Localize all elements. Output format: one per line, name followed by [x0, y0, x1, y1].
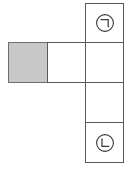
net-cell-giyeok: ㉠	[85, 3, 124, 43]
net-cell-right-second	[85, 42, 124, 83]
net-cell-nieun: ㉡	[85, 122, 124, 163]
cube-net-figure: ㉠ ㉡	[0, 0, 131, 170]
circled-giyeok-icon	[86, 4, 123, 42]
circled-nieun-icon	[86, 123, 123, 162]
net-cell-middle	[47, 42, 86, 83]
net-cell-right-third	[85, 82, 124, 123]
net-cell-shaded	[8, 42, 48, 83]
